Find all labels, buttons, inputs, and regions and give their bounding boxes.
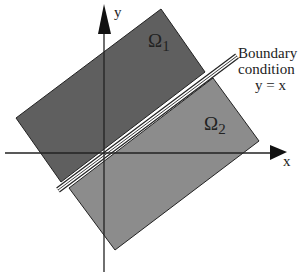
y-axis-arrow-icon xyxy=(98,4,111,34)
omega2-symbol: Ω xyxy=(204,113,218,134)
omega2-subscript: 2 xyxy=(218,121,226,137)
boundary-equation: y = x xyxy=(255,77,286,93)
y-axis-label: y xyxy=(114,4,122,20)
x-axis-label: x xyxy=(283,153,291,169)
omega1-symbol: Ω xyxy=(148,30,162,51)
boundary-label-line2: condition xyxy=(238,61,295,77)
omega1-subscript: 1 xyxy=(162,38,170,54)
domain-decomposition-diagram: y x Ω1 Ω2 Boundary condition y = x xyxy=(0,0,301,278)
boundary-label-line1: Boundary xyxy=(238,45,298,61)
